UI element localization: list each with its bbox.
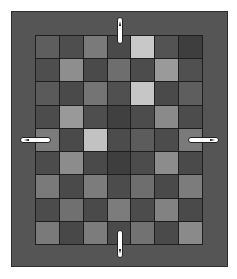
grid-cell[interactable] [60, 36, 83, 58]
grid-cell[interactable] [179, 106, 202, 128]
grid-cell[interactable] [84, 175, 107, 197]
grid-cell[interactable] [131, 36, 154, 58]
grid-cell[interactable] [155, 59, 178, 81]
grid-cell[interactable] [60, 199, 83, 221]
grid-cell[interactable] [155, 129, 178, 151]
shift-down-button[interactable] [117, 230, 123, 258]
grid-cell[interactable] [60, 106, 83, 128]
grid-cell[interactable] [155, 106, 178, 128]
grid-cell[interactable] [131, 152, 154, 174]
shift-up-button[interactable] [117, 17, 123, 44]
grid-cell[interactable] [108, 175, 131, 197]
grid-cell[interactable] [131, 175, 154, 197]
grid-cell[interactable] [179, 59, 202, 81]
grid-cell[interactable] [36, 36, 59, 58]
grid-cell[interactable] [155, 199, 178, 221]
arrow-left-icon [24, 139, 29, 141]
grid-cell[interactable] [131, 222, 154, 244]
grid-cell[interactable] [84, 199, 107, 221]
grid-cell[interactable] [179, 36, 202, 58]
grid-cell[interactable] [36, 222, 59, 244]
grid-cell[interactable] [179, 199, 202, 221]
grid-cell[interactable] [131, 59, 154, 81]
grid-cell[interactable] [108, 199, 131, 221]
grid-cell[interactable] [179, 152, 202, 174]
grid-cell[interactable] [60, 175, 83, 197]
grid-cell[interactable] [131, 82, 154, 104]
grid-cell[interactable] [60, 59, 83, 81]
grid-cell[interactable] [84, 59, 107, 81]
grid-cell[interactable] [155, 152, 178, 174]
shift-right-button[interactable] [188, 137, 219, 143]
grid-cell[interactable] [108, 152, 131, 174]
arrow-down-icon [119, 249, 121, 254]
grid-cell[interactable] [36, 152, 59, 174]
grid-cell[interactable] [36, 199, 59, 221]
grid-cell[interactable] [60, 222, 83, 244]
grid-cell[interactable] [84, 129, 107, 151]
grid-cell[interactable] [179, 175, 202, 197]
arrow-up-icon [119, 21, 121, 26]
shift-left-button[interactable] [20, 137, 51, 143]
game-grid [35, 35, 203, 245]
grid-cell[interactable] [155, 222, 178, 244]
grid-cell[interactable] [131, 199, 154, 221]
grid-cell[interactable] [36, 175, 59, 197]
grid-cell[interactable] [131, 106, 154, 128]
grid-cell[interactable] [108, 59, 131, 81]
grid-cell[interactable] [60, 129, 83, 151]
grid-cell[interactable] [179, 222, 202, 244]
grid-cell[interactable] [36, 106, 59, 128]
grid-cell[interactable] [108, 129, 131, 151]
grid-cell[interactable] [60, 152, 83, 174]
grid-cell[interactable] [84, 152, 107, 174]
grid-cell[interactable] [108, 106, 131, 128]
grid-cell[interactable] [84, 106, 107, 128]
grid-cell[interactable] [84, 222, 107, 244]
grid-cell[interactable] [108, 82, 131, 104]
grid-cell[interactable] [84, 36, 107, 58]
grid-cell[interactable] [36, 59, 59, 81]
grid-cell[interactable] [155, 82, 178, 104]
grid-cell[interactable] [155, 175, 178, 197]
arrow-right-icon [210, 139, 215, 141]
grid-cell[interactable] [179, 82, 202, 104]
grid-cell[interactable] [131, 129, 154, 151]
grid-cell[interactable] [60, 82, 83, 104]
grid-cell[interactable] [84, 82, 107, 104]
grid-cell[interactable] [36, 82, 59, 104]
grid-cell[interactable] [155, 36, 178, 58]
